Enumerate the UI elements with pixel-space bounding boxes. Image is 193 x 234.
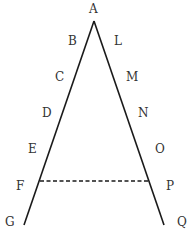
label-c: C [55,70,64,84]
label-d: D [42,106,52,120]
label-l: L [114,34,122,48]
label-q: Q [177,215,187,229]
label-a: A [88,2,98,16]
label-f: F [16,179,24,193]
label-o: O [155,142,165,156]
triangle-diagram: A B C D E F G L M N O P Q [0,0,193,234]
label-n: N [138,106,149,120]
label-m: M [126,70,138,84]
label-b: B [68,34,77,48]
left-side-line [24,21,94,225]
right-side-line [94,21,164,225]
label-g: G [5,215,15,229]
label-e: E [28,142,37,156]
label-p: P [166,179,174,193]
